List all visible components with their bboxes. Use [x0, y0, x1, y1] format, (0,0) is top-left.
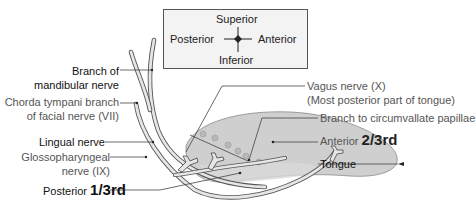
label-lingual-nerve: Lingual nerve	[39, 136, 105, 148]
anterior-prefix: Anterior	[320, 135, 362, 147]
label-vagus-line1: Vagus nerve (X)	[307, 80, 386, 92]
label-mandibular-nerve: mandibular nerve	[34, 79, 119, 91]
label-tongue: Tongue	[320, 158, 356, 170]
label-glossopharyngeal-line2: nerve (IX)	[62, 165, 110, 177]
label-branch-of: Branch of	[72, 65, 119, 77]
posterior-fraction: 1/3rd	[90, 181, 126, 198]
label-chorda-tympani-line1: Chorda tympani branch	[5, 96, 119, 108]
label-glossopharyngeal-line1: Glossopharyngeal	[21, 151, 110, 163]
label-circumvallate: Branch to circumvallate papillae	[320, 112, 475, 124]
label-anterior-third: Anterior 2/3rd	[320, 134, 397, 147]
posterior-prefix: Posterior	[43, 185, 90, 197]
label-chorda-tympani-line2: of facial nerve (VII)	[27, 110, 119, 122]
anterior-fraction: 2/3rd	[362, 131, 398, 148]
label-posterior-third: Posterior 1/3rd	[43, 184, 126, 197]
label-vagus-line2: (Most posterior part of tongue)	[307, 94, 455, 106]
